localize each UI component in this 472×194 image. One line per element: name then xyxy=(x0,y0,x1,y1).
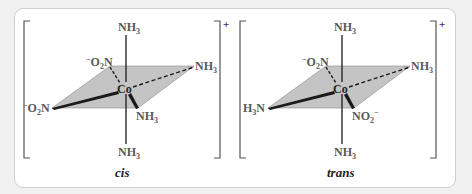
ligand-front-right: NO2− xyxy=(352,108,379,125)
ligand-axial-bottom: NH3 xyxy=(118,145,140,161)
right-bracket xyxy=(214,21,220,158)
center-atom: Co xyxy=(333,82,348,96)
ligand-axial-bottom: NH3 xyxy=(334,145,356,161)
trans-complex: + Co NH3 NH3 −O2N NH3 H3N NO2− trans xyxy=(240,18,445,180)
isomer-diagram: + Co NH3 NH3 −O2N NH3 −O2N NH3 cis + xyxy=(0,0,472,194)
ligand-axial-top: NH3 xyxy=(118,20,140,36)
center-atom: Co xyxy=(117,82,132,96)
ligand-back-right: NH3 xyxy=(195,59,217,75)
charge-label: + xyxy=(223,18,229,30)
left-bracket xyxy=(240,21,246,158)
ligand-back-left: −O2N xyxy=(302,55,329,71)
ligand-back-right: NH3 xyxy=(411,59,433,75)
ligand-front-left: H3N xyxy=(243,101,265,117)
ligand-front-right: NH3 xyxy=(136,109,158,125)
isomer-caption-trans: trans xyxy=(327,165,354,180)
ligand-axial-top: NH3 xyxy=(334,20,356,36)
ligand-front-left: −O2N xyxy=(23,101,50,117)
ligand-back-left: −O2N xyxy=(86,55,113,71)
cis-complex: + Co NH3 NH3 −O2N NH3 −O2N NH3 cis xyxy=(23,18,229,180)
charge-label: + xyxy=(439,18,445,30)
isomer-caption-cis: cis xyxy=(115,165,129,180)
left-bracket xyxy=(24,21,30,158)
right-bracket xyxy=(430,21,436,158)
